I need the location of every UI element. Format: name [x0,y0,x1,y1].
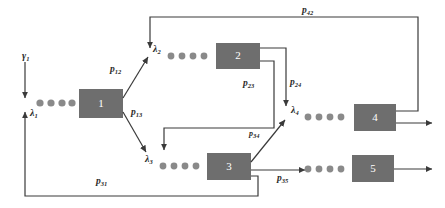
p31-label: p31 [96,177,107,187]
node-3-label: 3 [207,161,251,172]
arrow-flow-1-2 [123,57,148,98]
p24-label: p24 [290,78,301,88]
p34-sub: 34 [253,132,260,139]
network-graphics [0,0,445,208]
p35-sub: 35 [282,177,289,184]
queue-1-customers [36,99,75,106]
node-2-label: 2 [216,50,260,61]
queue-5-customers [305,166,345,173]
arrow-flow-2-4 [260,48,286,106]
queueing-network-diagram: 1 2 3 4 5 γ1 λ1 λ2 λ3 λ4 p12 p13 p23 p24… [0,0,445,208]
queue-4-customers [305,114,345,121]
p42-sub: 42 [307,9,314,16]
p35-label: p35 [277,174,288,184]
p23-sub: 23 [248,82,255,89]
p12-label: p12 [110,65,121,75]
p13-sub: 13 [136,111,143,118]
queue-3-customers [160,163,200,170]
p24-sub: 24 [295,81,302,88]
arrow-flow-4-2 [150,17,418,111]
arrow-flow-1-3 [123,112,146,152]
lambda-4-sub: 4 [295,109,298,116]
queue-2-customers [168,53,208,60]
arrow-flow-3-4 [251,120,285,162]
p34-label: p34 [249,130,260,138]
node-4-label: 4 [354,112,396,123]
gamma-1-label: γ1 [22,51,29,61]
lambda-3-sub: 3 [149,158,152,165]
gamma-1-sub: 1 [26,55,29,62]
lambda-1-label: λ1 [30,108,38,118]
lambda-2-label: λ2 [153,44,161,54]
lambda-3-label: λ3 [145,154,153,164]
lambda-2-sub: 2 [157,48,160,55]
p31-sub: 31 [101,180,108,187]
lambda-1-sub: 1 [34,112,37,119]
lambda-4-label: λ4 [291,105,299,115]
node-1-label: 1 [79,98,123,109]
p13-label: p13 [131,108,142,118]
p42-label: p42 [302,6,313,16]
p23-label: p23 [243,79,254,89]
p12-sub: 12 [115,68,122,75]
node-5-label: 5 [352,163,394,174]
